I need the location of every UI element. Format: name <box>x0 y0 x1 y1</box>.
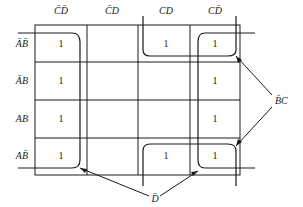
karnaugh-map: C̄D̄ C̄D CD CD̄ ĀB̄ ĀB AB AB̄ 1 1 1 1 1 … <box>0 0 303 207</box>
row-header-a-b: AB <box>15 113 28 124</box>
row-header-abar-b: ĀB <box>15 75 28 86</box>
group-loops <box>18 16 255 186</box>
arrow-dbar-left <box>80 168 149 196</box>
cell-r3-c0: 1 <box>59 150 64 161</box>
cell-r0-c3: 1 <box>213 38 218 49</box>
arrowhead-icon <box>80 168 87 173</box>
col-header-cbar-dbar: C̄D̄ <box>54 5 69 16</box>
row-header-abar-bbar: ĀB̄ <box>15 38 28 49</box>
map-grid <box>35 25 240 175</box>
cell-r0-c2: 1 <box>164 38 169 49</box>
col-header-cbar-d: C̄D <box>105 5 120 16</box>
arrow-bbarc-bottom <box>236 107 272 146</box>
cell-r0-c0: 1 <box>59 38 64 49</box>
cell-r2-c3: 1 <box>213 113 218 124</box>
arrow-bbarc-top <box>236 56 272 95</box>
cell-r3-c2: 1 <box>164 150 169 161</box>
label-bbar-c: B̄C <box>275 95 288 106</box>
arrow-heads <box>80 56 242 176</box>
cell-r3-c3: 1 <box>213 150 218 161</box>
row-header-a-bbar: AB̄ <box>15 150 28 161</box>
cell-r1-c3: 1 <box>213 75 218 86</box>
col-header-c-d: CD <box>159 5 174 16</box>
col-header-c-dbar: CD̄ <box>208 5 223 16</box>
label-dbar: D̄ <box>150 193 159 204</box>
cell-r1-c0: 1 <box>59 75 64 86</box>
cell-r2-c0: 1 <box>59 113 64 124</box>
